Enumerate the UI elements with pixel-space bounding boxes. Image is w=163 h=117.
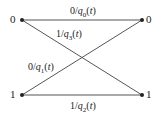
trellis-diagram: 0 0 1 1 0/q0(t) 1/q3(t) 0/q1(t) 1/q2(t) bbox=[0, 0, 163, 117]
edge-label-0-0: 0/q0(t) bbox=[70, 6, 96, 20]
node-right-0 bbox=[140, 18, 144, 22]
state-label-right-1: 1 bbox=[146, 89, 152, 100]
state-label-left-1: 1 bbox=[10, 89, 16, 100]
state-label-right-0: 0 bbox=[146, 14, 152, 25]
edge-label-1-0: 0/q1(t) bbox=[28, 62, 54, 76]
node-left-1 bbox=[20, 93, 24, 97]
node-right-1 bbox=[140, 93, 144, 97]
edge-label-0-1: 1/q3(t) bbox=[56, 29, 82, 43]
edge-label-1-1: 1/q2(t) bbox=[70, 101, 96, 115]
node-left-0 bbox=[20, 18, 24, 22]
state-label-left-0: 0 bbox=[10, 14, 16, 25]
